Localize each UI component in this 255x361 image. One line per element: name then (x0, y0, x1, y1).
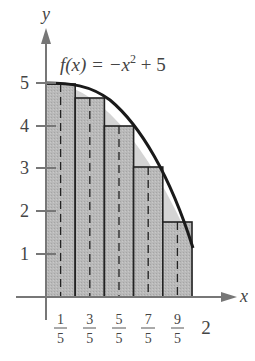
x-tick-2-num: 3 (86, 312, 93, 327)
x-tick-1-den: 5 (57, 331, 64, 346)
y-axis-label: y (40, 4, 50, 24)
riemann-diagram: y x 1 2 3 4 5 f(x) = −x2 + 5 1 5 3 5 5 5… (0, 0, 255, 361)
x-tick-5-num: 9 (174, 312, 181, 327)
y-tick-1: 1 (20, 244, 29, 264)
x-tick-5-den: 5 (174, 331, 181, 346)
x-tick-2-den: 5 (86, 331, 93, 346)
x-tick-3-den: 5 (116, 331, 123, 346)
x-axis-label: x (239, 286, 248, 306)
x-tick-4-den: 5 (145, 331, 152, 346)
y-tick-labels: 1 2 3 4 5 (20, 73, 29, 264)
x-tick-1-num: 1 (57, 312, 64, 327)
y-tick-3: 3 (20, 158, 29, 178)
y-tick-4: 4 (20, 116, 29, 136)
function-label: f(x) = −x2 + 5 (60, 52, 166, 76)
y-tick-5: 5 (20, 73, 29, 93)
x-tick-4-num: 7 (145, 312, 152, 327)
x-tick-labels: 1 5 3 5 5 5 7 5 9 5 (54, 312, 184, 346)
x-tick-3-num: 5 (116, 312, 123, 327)
x-tick-2: 2 (201, 317, 211, 338)
y-tick-2: 2 (20, 201, 29, 221)
